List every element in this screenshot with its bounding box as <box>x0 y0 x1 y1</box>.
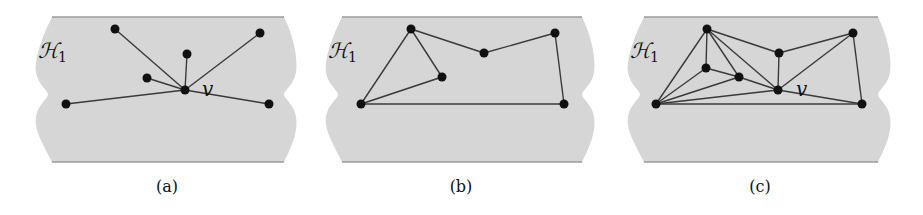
region-h1 <box>326 17 595 162</box>
graph-vertex <box>560 100 569 109</box>
graph-vertex <box>652 100 661 109</box>
graph-vertex <box>735 73 744 82</box>
graph-vertex <box>143 74 152 83</box>
panel-b: ℋ1(b) <box>326 17 595 196</box>
graph-vertex <box>111 25 120 34</box>
panel-caption: (b) <box>450 177 473 196</box>
graph-vertex <box>438 73 447 82</box>
region-h1 <box>36 17 297 162</box>
graph-vertex <box>265 100 274 109</box>
panel-a: ℋ1v(a) <box>36 17 297 196</box>
figure-canvas: ℋ1v(a)ℋ1(b)ℋ1v(c) <box>0 0 923 215</box>
graph-vertex <box>858 100 867 109</box>
graph-vertex <box>256 29 265 38</box>
graph-vertex <box>480 49 489 58</box>
vertex-label-v: v <box>202 77 214 101</box>
region-label-subscript: 1 <box>348 49 357 65</box>
graph-vertex <box>183 50 192 59</box>
region-label-subscript: 1 <box>58 49 67 65</box>
graph-vertex <box>703 25 712 34</box>
panel-caption: (c) <box>749 177 770 196</box>
graph-vertex <box>181 86 190 95</box>
vertex-label-v: v <box>796 77 808 101</box>
panel-c: ℋ1v(c) <box>628 17 891 196</box>
region-label-subscript: 1 <box>650 49 659 65</box>
graph-vertex <box>774 86 783 95</box>
panel-caption: (a) <box>156 177 178 196</box>
graph-edge <box>778 53 779 90</box>
graph-vertex <box>849 29 858 38</box>
graph-edge <box>706 29 707 68</box>
graph-vertex <box>407 25 416 34</box>
graph-vertex <box>357 100 366 109</box>
graph-vertex <box>62 100 71 109</box>
graph-vertex <box>775 49 784 58</box>
graph-vertex <box>551 29 560 38</box>
region-h1 <box>628 17 891 162</box>
graph-vertex <box>702 64 711 73</box>
